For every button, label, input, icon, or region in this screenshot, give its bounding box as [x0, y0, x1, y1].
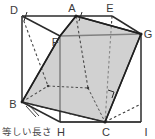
vertex-dot-M2: [87, 87, 89, 89]
vertex-dot-G: [139, 32, 142, 35]
vertex-label-D: D: [10, 4, 18, 16]
vertex-label-E: E: [106, 2, 113, 14]
edge-DF: [22, 16, 60, 36]
vertex-dot-B: [21, 101, 24, 104]
cut-plane-polygon: [22, 16, 141, 122]
vertex-label-G: G: [144, 28, 153, 40]
vertex-label-B: B: [9, 98, 16, 110]
vertex-label-A: A: [68, 2, 76, 14]
vertex-label-F: F: [52, 36, 59, 48]
cut-plane-group: [22, 16, 141, 122]
vertex-label-C: C: [102, 126, 110, 138]
equal-length-caption: 等しい長さ: [2, 126, 52, 137]
geometry-figure: D A E G F B H C I 等しい長さ: [0, 0, 155, 139]
vertex-label-H: H: [57, 126, 65, 138]
vertex-dot-M1: [47, 85, 49, 87]
vertex-dot-C: [103, 120, 106, 123]
cube-cross-section-svg: D A E G F B H C I 等しい長さ: [0, 0, 155, 139]
vertex-label-I: I: [144, 126, 147, 138]
vertex-dot-A: [74, 14, 77, 17]
